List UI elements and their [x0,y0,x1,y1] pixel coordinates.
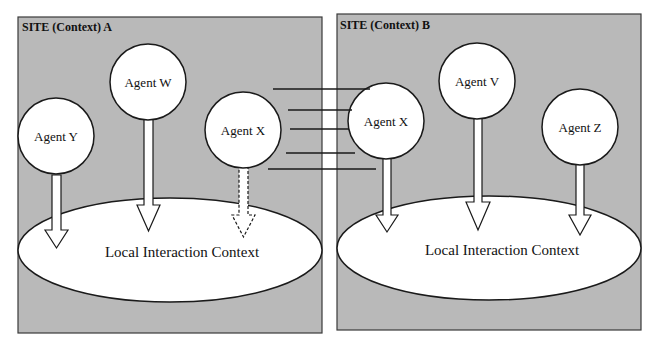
diagram-canvas: SITE (Context) A Local Interaction Conte… [0,0,661,346]
agent-v-label: Agent V [455,74,500,89]
agent-z-label: Agent Z [559,120,602,135]
agent-x-b-label: Agent X [364,114,409,129]
agent-y-label: Agent Y [34,129,79,144]
site-b-context-label: Local Interaction Context [425,242,580,258]
site-a-context-label: Local Interaction Context [105,244,260,260]
site-b-title: SITE (Context) B [340,18,430,32]
agent-w-label: Agent W [124,75,172,90]
site-a-title: SITE (Context) A [22,20,112,34]
site-b: SITE (Context) B Local Interaction Conte… [337,14,641,330]
site-a: SITE (Context) A Local Interaction Conte… [18,17,322,333]
agent-x-a-label: Agent X [221,123,266,138]
